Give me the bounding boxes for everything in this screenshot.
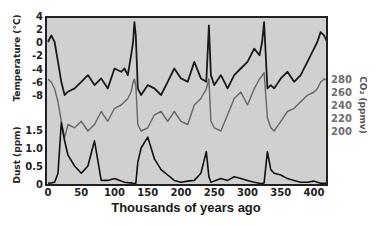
- plot-area: [46, 17, 327, 185]
- x-tick: 150: [137, 187, 158, 198]
- temperature-ticks: 420-2-4-6-8: [32, 11, 43, 102]
- temperature-tick: 2: [36, 24, 43, 35]
- x-tick: 300: [237, 187, 258, 198]
- dust-tick: 1.5: [25, 125, 43, 136]
- co2-axis-label: CO₂ (ppmv): [358, 76, 368, 134]
- temperature-tick: -4: [32, 64, 43, 75]
- temperature-tick: -8: [32, 90, 43, 101]
- co2-tick: 240: [331, 100, 352, 111]
- x-tick: 350: [270, 187, 291, 198]
- climate-chart: 420-2-4-6-8 1.51.00.50 280260240220200 0…: [0, 0, 381, 226]
- x-tick: 0: [45, 187, 52, 198]
- x-tick: 200: [171, 187, 192, 198]
- dust-tick: 0: [36, 179, 43, 190]
- co2-ticks: 280260240220200: [331, 74, 352, 137]
- x-tick: 250: [204, 187, 225, 198]
- dust-ticks: 1.51.00.50: [25, 125, 43, 190]
- temperature-axis-label: Temperature (°C): [12, 14, 22, 101]
- co2-tick: 220: [331, 113, 352, 124]
- temperature-tick: -6: [32, 77, 43, 88]
- x-axis-label: Thousands of years ago: [111, 200, 261, 215]
- temperature-tick: 4: [36, 11, 43, 22]
- dust-axis-label: Dust (ppm): [12, 126, 22, 183]
- co2-tick: 200: [331, 126, 352, 137]
- co2-tick: 260: [331, 87, 352, 98]
- x-tick: 50: [74, 187, 88, 198]
- co2-tick: 280: [331, 74, 352, 85]
- temperature-tick: -2: [32, 50, 43, 61]
- x-tick: 100: [104, 187, 125, 198]
- dust-tick: 0.5: [25, 161, 43, 172]
- x-tick: 400: [304, 187, 325, 198]
- dust-tick: 1.0: [25, 143, 43, 154]
- temperature-tick: 0: [36, 37, 43, 48]
- x-ticks: 050100150200250300350400: [45, 187, 325, 198]
